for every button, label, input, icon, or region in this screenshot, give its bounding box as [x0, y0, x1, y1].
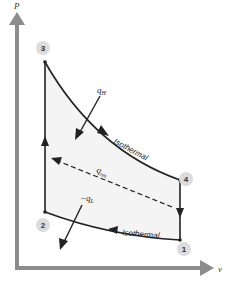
state-label-2: 2	[36, 218, 50, 232]
svg-text:3: 3	[41, 44, 46, 53]
cycle-region	[45, 62, 180, 240]
state-label-3: 3	[36, 41, 50, 55]
state-point-2	[43, 210, 47, 214]
v-axis	[15, 266, 201, 270]
q-high-label: qH	[97, 85, 107, 96]
state-point-3	[43, 60, 47, 64]
p-axis	[15, 24, 19, 270]
state-label-1: 1	[177, 242, 191, 256]
pv-diagram: P v Isothermal Isothermal qH qres −qL 3	[0, 0, 227, 281]
state-label-4: 4	[179, 172, 193, 186]
svg-text:2: 2	[41, 221, 46, 230]
v-axis-label: v	[218, 264, 222, 274]
q-low-arrowhead-icon	[59, 238, 68, 250]
isothermal-label-lower: Isothermal	[122, 228, 160, 240]
state-point-1	[178, 238, 182, 242]
svg-text:4: 4	[184, 175, 189, 184]
p-axis-arrow-icon	[9, 12, 25, 25]
svg-text:1: 1	[182, 245, 187, 254]
v-axis-arrow-icon	[200, 260, 214, 276]
p-axis-label: P	[13, 1, 20, 11]
